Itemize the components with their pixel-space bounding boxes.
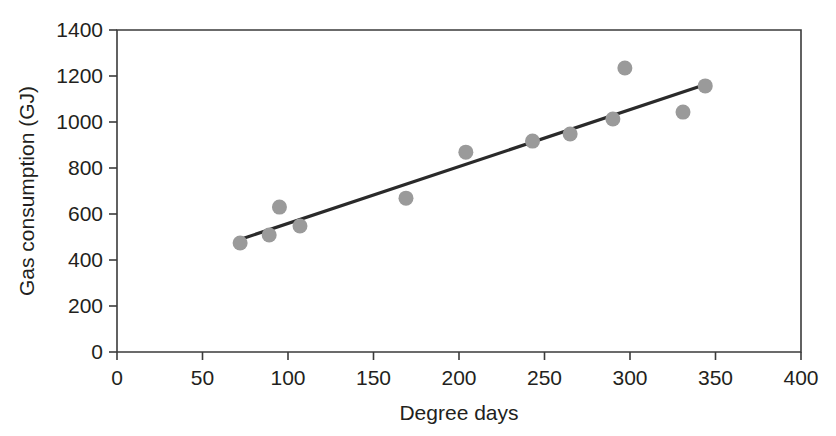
data-point <box>698 78 713 93</box>
x-tick-label: 150 <box>356 366 391 389</box>
data-point <box>262 227 277 242</box>
data-point <box>272 200 287 215</box>
trend-line-group <box>238 84 707 240</box>
x-tick-label: 0 <box>111 366 123 389</box>
y-tick-label: 0 <box>91 340 103 363</box>
y-axis-ticks: 0200400600800100012001400 <box>56 18 117 363</box>
y-tick-label: 200 <box>68 294 103 317</box>
x-axis-title: Degree days <box>399 401 518 424</box>
data-points-group <box>233 60 713 250</box>
data-point <box>676 105 691 120</box>
scatter-chart-figure: 0200400600800100012001400 05010015020025… <box>0 0 836 436</box>
x-tick-label: 50 <box>191 366 214 389</box>
x-tick-label: 300 <box>612 366 647 389</box>
x-tick-label: 350 <box>698 366 733 389</box>
chart-canvas: 0200400600800100012001400 05010015020025… <box>0 0 836 436</box>
trend-line <box>238 84 707 240</box>
data-point <box>458 145 473 160</box>
data-point <box>605 112 620 127</box>
data-point <box>398 191 413 206</box>
data-point <box>617 60 632 75</box>
data-point <box>233 235 248 250</box>
x-tick-label: 400 <box>783 366 818 389</box>
y-tick-label: 800 <box>68 156 103 179</box>
y-tick-label: 600 <box>68 202 103 225</box>
y-tick-label: 1000 <box>56 110 103 133</box>
y-tick-label: 400 <box>68 248 103 271</box>
x-axis-ticks: 050100150200250300350400 <box>111 352 818 389</box>
data-point <box>525 134 540 149</box>
plot-frame <box>117 30 801 352</box>
x-tick-label: 100 <box>270 366 305 389</box>
data-point <box>292 218 307 233</box>
y-tick-label: 1200 <box>56 64 103 87</box>
y-axis-title: Gas consumption (GJ) <box>15 86 38 296</box>
x-tick-label: 250 <box>527 366 562 389</box>
plot-border <box>117 30 801 352</box>
y-tick-label: 1400 <box>56 18 103 41</box>
data-point <box>563 126 578 141</box>
x-tick-label: 200 <box>441 366 476 389</box>
